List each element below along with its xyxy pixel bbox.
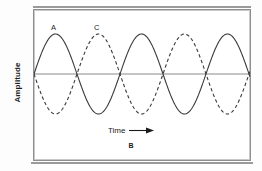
wave-label-a: A (51, 23, 56, 32)
wave-label-c: C (94, 23, 99, 32)
y-axis-label: Amplitude (13, 47, 22, 119)
frame-bottom-rule (31, 162, 253, 164)
frame-top-rule (33, 6, 251, 8)
x-axis-label-group: Time (108, 126, 155, 135)
figure-page: A C Amplitude Time B (0, 0, 262, 171)
right-arrow-icon (129, 126, 155, 135)
x-axis-label: Time (108, 126, 125, 135)
wave-plot (34, 10, 250, 160)
figure-caption: B (0, 142, 262, 149)
